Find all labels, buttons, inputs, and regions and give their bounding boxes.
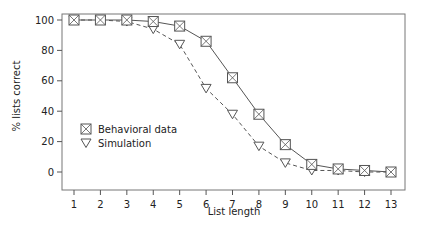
x-tick-label: 4 [150, 199, 156, 210]
y-tick-label: 80 [41, 45, 54, 56]
plot-frame [62, 14, 405, 190]
x-tick-label: 2 [97, 199, 103, 210]
x-tick-label: 5 [176, 199, 182, 210]
y-tick-label: 20 [41, 136, 54, 147]
y-axis-label: % lists correct [11, 61, 22, 132]
x-tick-label: 9 [282, 199, 288, 210]
x-tick-label: 3 [124, 199, 130, 210]
x-tick-label: 13 [385, 199, 398, 210]
x-tick-label: 10 [305, 199, 318, 210]
data-series [69, 15, 396, 177]
plot-border [62, 14, 405, 190]
y-tick-label: 0 [48, 167, 54, 178]
series-simulation [69, 16, 396, 177]
legend: Behavioral dataSimulation [81, 124, 177, 149]
triangle-marker [280, 159, 290, 168]
x-tick-label: 1 [71, 199, 77, 210]
y-axis: 020406080100 [35, 15, 62, 178]
legend-label-behavioral: Behavioral data [98, 124, 177, 135]
triangle-marker [175, 40, 185, 49]
triangle-marker [228, 110, 238, 119]
x-tick-label: 12 [358, 199, 371, 210]
y-tick-label: 60 [41, 75, 54, 86]
triangle-marker [254, 142, 264, 151]
legend-label-simulation: Simulation [98, 138, 151, 149]
y-tick-label: 40 [41, 106, 54, 117]
x-axis-label: List length [208, 206, 261, 217]
series-line [74, 20, 391, 172]
y-tick-label: 100 [35, 15, 54, 26]
triangle-marker [201, 84, 211, 93]
series-line [74, 20, 391, 172]
triangle-marker [81, 139, 91, 148]
series-behavioral [69, 15, 396, 177]
x-tick-label: 11 [332, 199, 345, 210]
line-chart: 020406080100 12345678910111213 Behaviora… [0, 0, 424, 229]
